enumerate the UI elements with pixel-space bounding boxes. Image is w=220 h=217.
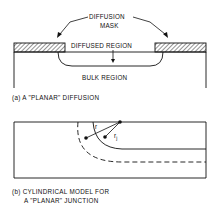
mask-right	[155, 43, 206, 52]
figure-b: r rj (b) CYLINDRICAL MODEL FOR A "PLANAR…	[12, 120, 206, 204]
junction-curve	[93, 122, 206, 149]
diffused-region-boundary	[58, 52, 163, 66]
figure-a: DIFFUSION MASK DIFFUSED REGION BULK REGI…	[12, 13, 206, 102]
label-diffused-region: DIFFUSED REGION	[71, 42, 132, 49]
label-rj: rj	[114, 132, 118, 141]
diagram-canvas: DIFFUSION MASK DIFFUSED REGION BULK REGI…	[0, 0, 220, 217]
mask-leader-left	[60, 17, 88, 34]
arrowhead-down-icon	[111, 59, 115, 63]
caption-b-line1: (b) CYLINDRICAL MODEL FOR	[12, 188, 109, 196]
label-r: r	[95, 123, 97, 130]
label-diffusion: DIFFUSION	[89, 13, 125, 20]
center-point-icon	[118, 120, 122, 124]
caption-b-line2: A "PLANAR" JUNCTION	[24, 197, 99, 204]
rj-endpoint-icon	[103, 135, 107, 139]
radius-rj-line	[105, 122, 120, 137]
r-endpoint-icon	[84, 136, 88, 140]
mask-leader-right	[133, 17, 165, 34]
caption-a: (a) A "PLANAR" DIFFUSION	[12, 94, 99, 102]
mask-left	[14, 43, 65, 52]
label-mask: MASK	[100, 22, 119, 29]
label-bulk-region: BULK REGION	[82, 74, 127, 81]
